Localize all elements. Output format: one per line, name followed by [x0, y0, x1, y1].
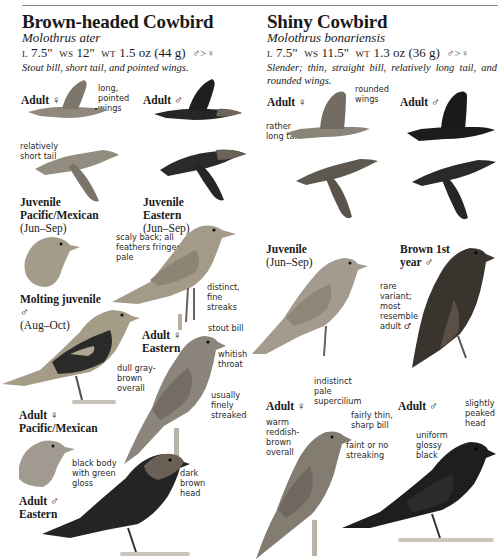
bird-shiny-male-flight-lower	[410, 154, 498, 222]
page-top-rule	[22, 5, 498, 6]
bird-bh-male-flight-lower	[158, 140, 248, 202]
label-shiny-adult-male: Adult ♂	[398, 400, 438, 413]
bird-bh-female-flight-upper	[26, 78, 111, 133]
bird-bh-female-flight-lower	[33, 145, 123, 203]
bird-shiny-female-flight-upper	[284, 89, 372, 151]
scientific-name-brown-headed: Molothrus ater	[22, 31, 100, 45]
scientific-name-shiny: Molothrus bonariensis	[267, 31, 385, 45]
bird-bh-male-flight-upper	[150, 78, 245, 135]
bird-bh-juvenile-pacific-head	[18, 233, 80, 288]
measurements-shiny: L 7.5" WS 11.5" WT 1.3 oz (36 g) ♂>♀	[267, 46, 469, 61]
description-brown-headed: Stout bill, short tail, and pointed wing…	[22, 61, 252, 74]
bird-shiny-male-flight-upper	[405, 89, 497, 151]
bird-shiny-brown-1st-year-perched	[400, 240, 495, 370]
note-slightly-peaked-head: slightly peaked head	[465, 398, 499, 428]
bird-shiny-female-flight-lower	[294, 153, 380, 221]
note-indistinct-pale-supercilium: indistinct pale supercilium	[314, 376, 364, 406]
species-title-brown-headed-cowbird: Brown-headed Cowbird	[22, 12, 213, 32]
bird-bh-adult-male-eastern-perched	[40, 440, 190, 558]
label-shiny-adult-female: Adult ♀	[266, 400, 306, 413]
species-title-shiny-cowbird: Shiny Cowbird	[267, 12, 387, 32]
note-fairly-thin-sharp-bill: fairly thin, sharp bill	[351, 410, 393, 430]
bird-shiny-adult-female-perched	[252, 420, 352, 559]
measurements-brown-headed: L 7.5" WS 12" WT 1.5 oz (44 g) ♂>♀	[22, 46, 215, 61]
bird-shiny-adult-male-perched	[340, 430, 496, 552]
label-adult-female-pacific-mexican: Adult ♀ Pacific/Mexican	[19, 409, 119, 435]
bird-shiny-juvenile-perched	[250, 250, 370, 362]
